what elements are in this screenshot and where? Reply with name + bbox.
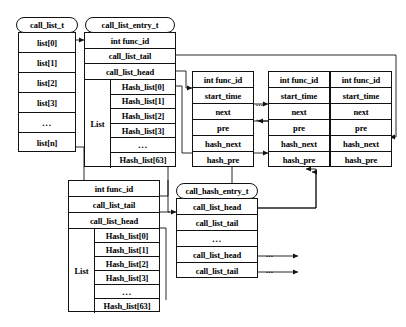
struct-header-call-hash-entry-t: call_hash_entry_t (176, 183, 258, 199)
node1-hash-next: hash_next (193, 136, 253, 152)
ellipsis-hash-tail: ... (266, 266, 274, 275)
field-hash-list-3-bottom: Hash_list[3] (95, 271, 159, 285)
struct-call-list-entry-bottom: int func_id call_list_tail call_list_hea… (68, 180, 160, 312)
node2-hash-next: hash_next (269, 136, 329, 152)
field-hash-list-63-bottom: Hash_list[63] (95, 299, 159, 313)
node1-func-id: int func_id (193, 72, 253, 88)
struct-header-call-list-entry-top: call_list_entry_t (85, 17, 175, 33)
field-hash-list-ellipsis-bottom: ... (95, 285, 159, 299)
field-hash-list-0: Hash_list[0] (111, 80, 175, 95)
struct-call-hash-entry-t: call_list_head call_list_tail ... call_l… (176, 198, 258, 278)
field-list-ellipsis: ... (19, 113, 75, 133)
node2-next: next (269, 104, 329, 120)
struct-call-list-entry-top: int func_id call_list_tail call_list_hea… (84, 32, 176, 167)
field-hash-list-63: Hash_list[63] (111, 153, 175, 168)
field-hash-list-1: Hash_list[1] (111, 95, 175, 110)
node1-pre: pre (193, 120, 253, 136)
list-group-rows-bottom: Hash_list[0] Hash_list[1] Hash_list[2] H… (95, 229, 159, 313)
field-list-1: list[1] (19, 53, 75, 73)
field-int-func-id-bottom: int func_id (69, 181, 159, 197)
field-hash-call-list-head-2: call_list_head (177, 247, 257, 263)
field-list-2: list[2] (19, 73, 75, 93)
node3-hash-pre: hash_pre (331, 152, 391, 168)
field-list-0: list[0] (19, 33, 75, 53)
node2-start-time: start_time (269, 88, 329, 104)
struct-header-call-list-t: call_list_t (16, 17, 78, 33)
field-hash-call-list-tail-2: call_list_tail (177, 263, 257, 279)
list-group-rows: Hash_list[0] Hash_list[1] Hash_list[2] H… (111, 80, 175, 168)
node1-hash-pre: hash_pre (193, 152, 253, 168)
field-call-list-head-bottom: call_list_head (69, 213, 159, 229)
field-hash-call-list-head-1: call_list_head (177, 199, 257, 215)
field-call-list-head: call_list_head (85, 64, 175, 80)
field-hash-list-3: Hash_list[3] (111, 124, 175, 139)
node-call-entry-1: int func_id start_time next pre hash_nex… (192, 71, 254, 167)
diagram-canvas: ... ... ... ... call_list_t list[0] list… (0, 0, 406, 327)
field-hash-call-list-tail-1: call_list_tail (177, 215, 257, 231)
node3-next: next (331, 104, 391, 120)
field-call-list-tail-bottom: call_list_tail (69, 197, 159, 213)
field-int-func-id: int func_id (85, 33, 175, 49)
node1-start-time: start_time (193, 88, 253, 104)
node2-hash-pre: hash_pre (269, 152, 329, 168)
node2-func-id: int func_id (269, 72, 329, 88)
node-call-entry-3: int func_id start_time next pre hash_nex… (330, 71, 392, 167)
node1-next: next (193, 104, 253, 120)
node3-pre: pre (331, 120, 391, 136)
field-hash-list-ellipsis: ... (111, 138, 175, 153)
field-hash-ellipsis: ... (177, 231, 257, 247)
node2-pre: pre (269, 120, 329, 136)
field-hash-list-1-bottom: Hash_list[1] (95, 243, 159, 257)
list-group-label: List (85, 80, 111, 168)
field-call-list-tail: call_list_tail (85, 49, 175, 64)
field-list-3: list[3] (19, 93, 75, 113)
field-list-n: list[n] (19, 133, 75, 153)
field-hash-list-2-bottom: Hash_list[2] (95, 257, 159, 271)
ellipsis-hash-head: ... (266, 250, 274, 259)
field-list-group-top: List Hash_list[0] Hash_list[1] Hash_list… (85, 80, 175, 168)
field-hash-list-2: Hash_list[2] (111, 109, 175, 124)
ellipsis-next-nodes: ... (256, 99, 264, 108)
node3-func-id: int func_id (331, 72, 391, 88)
node3-start-time: start_time (331, 88, 391, 104)
struct-call-list-t: list[0] list[1] list[2] list[3] ... list… (18, 32, 76, 152)
field-list-group-bottom: List Hash_list[0] Hash_list[1] Hash_list… (69, 229, 159, 313)
field-hash-list-0-bottom: Hash_list[0] (95, 229, 159, 243)
ellipsis-pre-nodes: ... (256, 114, 264, 123)
list-group-label-bottom: List (69, 229, 95, 313)
node-call-entry-2: int func_id start_time next pre hash_nex… (268, 71, 330, 167)
node3-hash-next: hash_next (331, 136, 391, 152)
